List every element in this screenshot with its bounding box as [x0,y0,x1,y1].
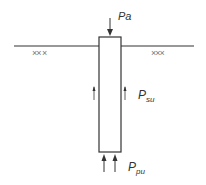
soil-hatch-right: ××× [151,48,165,58]
shaft-friction-label-main: P [138,88,146,102]
point-bearing-label-sub: pu [135,167,145,176]
applied-load-arrow-icon [107,18,113,36]
point-bearing-label-main: P [128,160,136,174]
point-bearing-left-arrow-icon [102,154,107,172]
point-bearing-right-arrow-icon [113,154,118,172]
soil-hatch-left: ×× × [32,48,47,58]
pile-shaft [99,37,121,152]
point-bearing-label: Ppu [128,160,145,176]
shaft-friction-right-arrow-icon [124,86,127,100]
shaft-friction-label: Psu [138,88,155,104]
shaft-friction-label-sub: su [146,95,155,104]
pile-load-diagram: ×× × ××× Pa Psu Ppu [0,0,206,185]
shaft-friction-left-arrow-icon [93,86,96,100]
applied-load-label: Pa [118,10,131,22]
